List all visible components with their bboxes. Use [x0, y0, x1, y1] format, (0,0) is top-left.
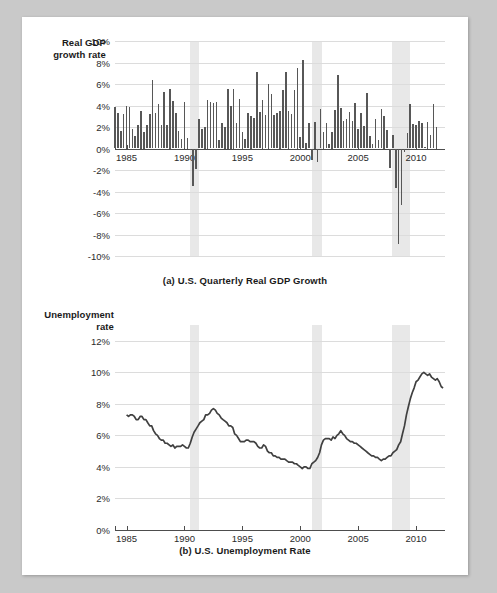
bar — [184, 102, 186, 148]
bar — [346, 119, 348, 148]
bar — [409, 104, 411, 148]
x-axis-tick-label: 1990 — [174, 533, 195, 544]
x-axis-tick-label: 1985 — [116, 152, 137, 163]
bar — [311, 149, 313, 161]
bar — [227, 89, 229, 148]
bar — [253, 118, 255, 148]
bar — [433, 104, 435, 148]
y-axis-tick-label: 4% — [96, 461, 110, 472]
bar — [328, 144, 330, 148]
data-line — [127, 372, 443, 468]
bar — [412, 124, 414, 149]
bar — [363, 126, 365, 149]
bar — [221, 123, 223, 149]
bar — [331, 132, 333, 148]
bar — [375, 119, 377, 148]
bar — [134, 136, 136, 149]
bar — [259, 112, 261, 149]
bar — [299, 137, 301, 149]
y-axis-tick-label: -4% — [93, 186, 110, 197]
bar — [149, 114, 151, 148]
figure-unemployment-rate: Unemployment rate 12%10%8%6%4%2%0%198519… — [22, 297, 468, 575]
unemployment-line-chart — [115, 325, 445, 530]
y-axis-tick-label: 2% — [96, 122, 110, 133]
bar — [276, 113, 278, 148]
bar — [302, 60, 304, 148]
bar — [357, 129, 359, 148]
bar — [317, 149, 319, 163]
unemployment-plot-area: 12%10%8%6%4%2%0%198519901995200020052010 — [115, 325, 445, 530]
bar — [140, 111, 142, 149]
bar — [389, 149, 391, 168]
y-axis-tick-label: 6% — [96, 430, 110, 441]
bar — [273, 115, 275, 148]
unemployment-y-axis-label-line1: Unemployment — [44, 309, 114, 320]
y-axis-tick-label: 10% — [91, 36, 110, 47]
bar — [233, 89, 235, 148]
x-axis-tick-label: 2005 — [348, 533, 369, 544]
unemployment-y-axis-label-line2: rate — [96, 321, 114, 332]
bar — [314, 122, 316, 149]
bar — [262, 100, 264, 148]
y-axis-tick-label: 4% — [96, 100, 110, 111]
bar — [137, 125, 139, 149]
bar — [163, 92, 165, 149]
bar — [427, 122, 429, 149]
bar — [424, 147, 426, 148]
bar — [337, 75, 339, 148]
gridline — [115, 41, 445, 42]
bar — [236, 123, 238, 149]
bar — [392, 135, 394, 149]
paper-page: Real GDP growth rate 10%8%6%4%2%0%-2%-4%… — [22, 17, 468, 575]
bar — [430, 135, 432, 149]
y-axis-tick-label: -8% — [93, 229, 110, 240]
bar — [334, 110, 336, 149]
bar — [407, 133, 409, 148]
gridline — [115, 213, 445, 214]
bar — [114, 107, 116, 149]
bar — [195, 149, 197, 169]
x-axis-tick-label: 2010 — [405, 152, 426, 163]
bar — [398, 149, 400, 245]
bar — [210, 102, 212, 148]
bar — [218, 140, 220, 149]
bar — [224, 127, 226, 149]
y-axis-tick-label: 8% — [96, 398, 110, 409]
bar — [343, 121, 345, 149]
bar — [158, 104, 160, 148]
bar — [175, 113, 177, 148]
gridline — [115, 256, 445, 257]
bar — [421, 123, 423, 149]
bar — [169, 89, 171, 148]
bar — [369, 136, 371, 149]
bar — [166, 125, 168, 149]
y-axis-tick-label: 12% — [91, 335, 110, 346]
bar — [378, 140, 380, 149]
bar — [383, 116, 385, 148]
bar — [320, 109, 322, 149]
gridline — [115, 63, 445, 64]
bar — [326, 123, 328, 149]
y-axis-tick-label: 8% — [96, 57, 110, 68]
y-axis-tick-label: -10% — [88, 251, 110, 262]
x-axis-tick-label: 1995 — [232, 533, 253, 544]
y-axis-tick-label: 6% — [96, 79, 110, 90]
x-axis-tick-label: 2000 — [290, 533, 311, 544]
bar — [155, 113, 157, 148]
bar — [354, 103, 356, 148]
bar — [372, 144, 374, 148]
bar — [213, 103, 215, 148]
bar — [181, 139, 183, 149]
figure-b-caption: (b) U.S. Unemployment Rate — [22, 545, 468, 556]
bar — [129, 107, 131, 149]
gridline — [115, 192, 445, 193]
x-axis-tick-label: 2010 — [405, 533, 426, 544]
bar — [395, 149, 397, 189]
bar — [230, 106, 232, 149]
bar — [366, 93, 368, 149]
bar — [265, 115, 267, 148]
y-axis-tick-label: 0% — [96, 143, 110, 154]
unemployment-y-axis-label: Unemployment rate — [22, 309, 114, 333]
bar — [192, 149, 194, 187]
bar — [415, 125, 417, 149]
